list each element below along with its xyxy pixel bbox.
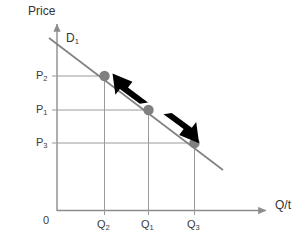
origin-label: 0 [43,215,49,226]
y-tick-label-p1: P1 [36,104,48,115]
x-tick-q3-sub: 3 [196,223,200,232]
x-tick-label-q3: Q3 [187,219,200,230]
demand-curve-diagram [0,0,302,240]
point-p1-q1 [143,105,153,115]
y-tick-p2-sub: 2 [43,74,47,83]
y-tick-label-p2: P2 [36,70,48,81]
x-tick-q1-main: Q [141,218,150,230]
x-tick-q3-main: Q [187,218,196,230]
x-tick-q1-sub: 1 [150,223,154,232]
y-tick-p3-sub: 3 [43,141,47,150]
x-tick-label-q1: Q1 [141,219,154,230]
demand-curve-d1 [49,38,223,170]
curve-label-d1: D1 [66,32,79,44]
y-axis-title: Price [28,5,55,17]
x-axis-title: Q/t [275,199,291,211]
point-p2-q2 [99,71,109,81]
x-tick-q2-main: Q [97,218,106,230]
x-tick-q2-sub: 2 [106,223,110,232]
y-tick-label-p3: P3 [36,137,48,148]
chart-figure-root: Price Q/t 0 D1 P2 P1 P3 Q2 Q1 Q3 [0,0,302,240]
y-tick-p1-sub: 1 [43,108,47,117]
curve-label-main: D [66,31,75,45]
x-tick-label-q2: Q2 [97,219,110,230]
curve-label-sub: 1 [75,37,79,46]
